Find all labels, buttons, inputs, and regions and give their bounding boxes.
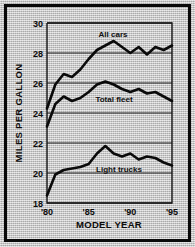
y-axis-ticks: 30 28 26 24 22 20 18 (33, 19, 43, 209)
series-label-light-trucks: Light trucks (96, 165, 142, 174)
y-tick-24: 24 (33, 109, 43, 119)
series-labels: All cars Total fleet Light trucks (95, 30, 142, 174)
x-axis-title: MODEL YEAR (76, 219, 142, 230)
x-tick-95: '95 (166, 207, 178, 217)
x-tick-90: '90 (124, 207, 136, 217)
y-tick-30: 30 (33, 19, 43, 29)
series-label-total-fleet: Total fleet (95, 95, 133, 104)
y-tick-28: 28 (33, 49, 43, 59)
x-tick-85: '85 (83, 207, 95, 217)
series-label-all-cars: All cars (99, 30, 128, 39)
y-axis-title: MILES PER GALLON (13, 64, 24, 163)
y-tick-22: 22 (33, 139, 43, 149)
figure-panel: 30 28 26 24 22 20 18 '80 '85 '90 '95 MOD… (0, 0, 195, 247)
mpg-line-chart: 30 28 26 24 22 20 18 '80 '85 '90 '95 MOD… (0, 0, 195, 247)
x-tick-80: '80 (41, 207, 53, 217)
x-axis-ticks: '80 '85 '90 '95 (41, 207, 178, 217)
y-tick-20: 20 (33, 169, 43, 179)
series-line-total-fleet (47, 82, 172, 127)
y-tick-26: 26 (33, 79, 43, 89)
